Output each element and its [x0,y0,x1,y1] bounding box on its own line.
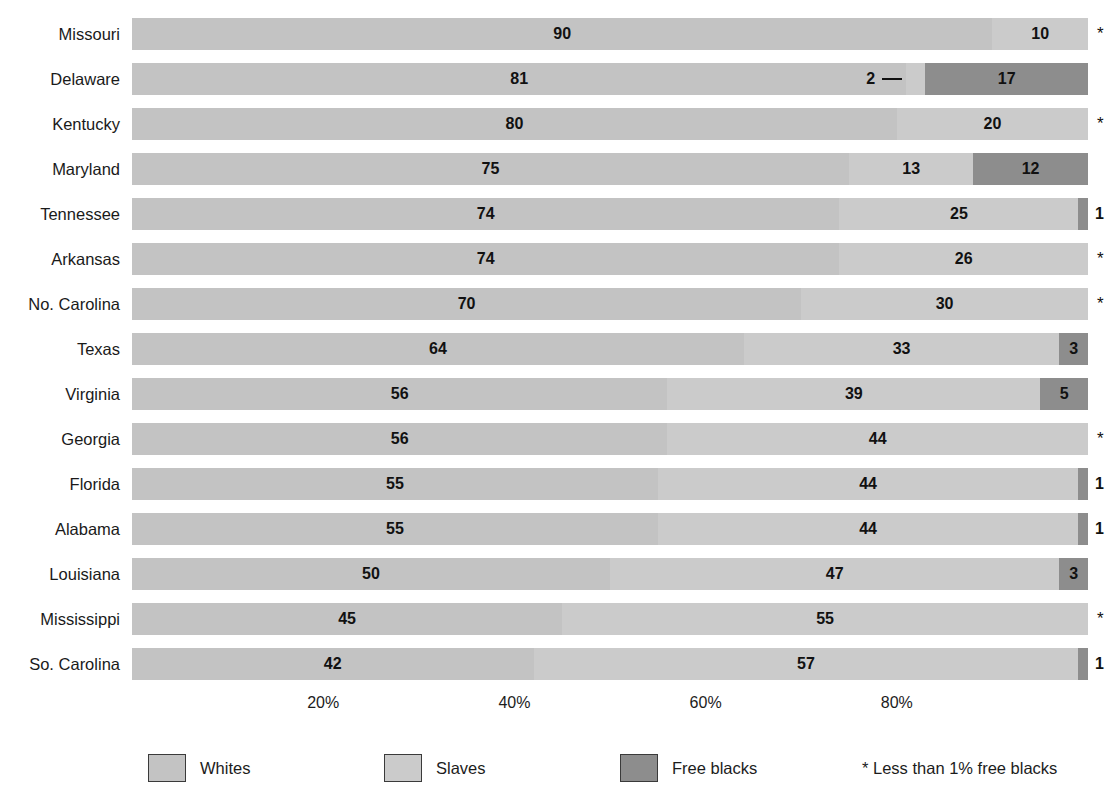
value-label-slaves: 57 [534,648,1079,680]
value-label-slaves: 55 [562,603,1088,635]
category-label-mississippi: Mississippi [0,603,120,635]
chart-row: Virginia56395 [0,378,1116,410]
chart-row: Missouri9010* [0,18,1116,50]
value-label-free_blacks: 1 [1095,468,1104,500]
less-than-one-percent-marker: * [1097,108,1104,140]
category-label-maryland: Maryland [0,153,120,185]
value-label-slaves: 26 [839,243,1088,275]
value-label-free_blacks: 5 [1040,378,1088,410]
value-label-free_blacks: 1 [1095,648,1104,680]
value-label-whites: 80 [132,108,897,140]
x-tick-label: 60% [690,694,722,712]
value-label-whites: 56 [132,378,667,410]
category-label-alabama: Alabama [0,513,120,545]
value-label-slaves: 30 [801,288,1088,320]
category-label-georgia: Georgia [0,423,120,455]
category-label-kentucky: Kentucky [0,108,120,140]
value-label-free_blacks: 1 [1095,198,1104,230]
legend-item-slaves: Slaves [384,752,486,784]
value-label-whites: 75 [132,153,849,185]
bar-segment-free_blacks [1078,513,1088,545]
category-label-no-carolina: No. Carolina [0,288,120,320]
category-label-tennessee: Tennessee [0,198,120,230]
value-label-whites: 56 [132,423,667,455]
category-label-virginia: Virginia [0,378,120,410]
value-label-whites: 50 [132,558,610,590]
value-label-whites: 55 [132,468,658,500]
value-label-slaves: 44 [658,513,1079,545]
value-label-whites: 42 [132,648,534,680]
less-than-one-percent-marker: * [1097,243,1104,275]
value-label-whites: 45 [132,603,562,635]
legend-item-whites: Whites [148,752,250,784]
x-tick-label: 80% [881,694,913,712]
value-label-whites: 81 [132,63,906,95]
legend-swatch-free-blacks [620,754,658,782]
value-label-slaves: 25 [839,198,1078,230]
bar-segment-free_blacks [1078,648,1088,680]
chart-row: Mississippi4555* [0,603,1116,635]
chart-legend: WhitesSlavesFree blacks* Less than 1% fr… [0,752,1116,792]
x-axis: 20%40%60%80% [0,690,1116,730]
value-label-slaves: 44 [658,468,1079,500]
less-than-one-percent-marker: * [1097,18,1104,50]
value-label-slaves: 2 [866,63,875,95]
value-label-free_blacks: 12 [973,153,1088,185]
chart-row: Delaware81217 [0,63,1116,95]
bar-segment-slaves [906,63,925,95]
category-label-louisiana: Louisiana [0,558,120,590]
legend-swatch-slaves [384,754,422,782]
value-label-whites: 64 [132,333,744,365]
value-label-whites: 74 [132,243,839,275]
plot-area: Missouri9010*Delaware81217Kentucky8020*M… [0,0,1116,690]
value-label-whites: 55 [132,513,658,545]
category-label-texas: Texas [0,333,120,365]
value-label-slaves: 13 [849,153,973,185]
value-label-free_blacks: 3 [1059,558,1088,590]
value-label-slaves: 47 [610,558,1059,590]
legend-swatch-whites [148,754,186,782]
chart-row: Louisiana50473 [0,558,1116,590]
less-than-one-percent-marker: * [1097,603,1104,635]
legend-footnote: * Less than 1% free blacks [862,752,1057,784]
legend-label: Slaves [436,759,486,778]
chart-row: Texas64333 [0,333,1116,365]
value-label-whites: 74 [132,198,839,230]
bar-segment-free_blacks [1078,468,1088,500]
category-label-arkansas: Arkansas [0,243,120,275]
chart-row: So. Carolina42571 [0,648,1116,680]
x-tick-label: 20% [307,694,339,712]
chart-row: Arkansas7426* [0,243,1116,275]
legend-label: Free blacks [672,759,757,778]
chart-row: Tennessee74251 [0,198,1116,230]
value-label-free_blacks: 3 [1059,333,1088,365]
x-tick-label: 40% [498,694,530,712]
chart-row: Georgia5644* [0,423,1116,455]
value-label-slaves: 20 [897,108,1088,140]
category-label-missouri: Missouri [0,18,120,50]
leader-line [882,78,902,80]
category-label-florida: Florida [0,468,120,500]
value-label-slaves: 44 [667,423,1088,455]
value-label-slaves: 10 [992,18,1088,50]
chart-row: Kentucky8020* [0,108,1116,140]
less-than-one-percent-marker: * [1097,288,1104,320]
value-label-free_blacks: 1 [1095,513,1104,545]
value-label-slaves: 33 [744,333,1059,365]
value-label-whites: 70 [132,288,801,320]
value-label-free_blacks: 17 [925,63,1088,95]
chart-row: No. Carolina7030* [0,288,1116,320]
less-than-one-percent-marker: * [1097,423,1104,455]
value-label-whites: 90 [132,18,992,50]
value-label-slaves: 39 [667,378,1040,410]
chart-row: Florida55441 [0,468,1116,500]
chart-row: Maryland751312 [0,153,1116,185]
category-label-so-carolina: So. Carolina [0,648,120,680]
legend-label: Whites [200,759,250,778]
bar-segment-free_blacks [1078,198,1088,230]
legend-item-free-blacks: Free blacks [620,752,757,784]
category-label-delaware: Delaware [0,63,120,95]
stacked-bar-chart: Missouri9010*Delaware81217Kentucky8020*M… [0,0,1116,806]
chart-row: Alabama55441 [0,513,1116,545]
